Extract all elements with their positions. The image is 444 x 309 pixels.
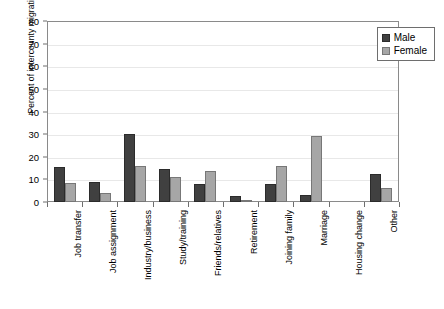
y-axis-tick-label: 80 bbox=[28, 16, 39, 27]
female-swatch-icon bbox=[382, 47, 390, 55]
x-axis-tick-mark bbox=[153, 202, 154, 207]
chart-legend: Male Female bbox=[377, 27, 435, 61]
y-axis-tick-label: 50 bbox=[28, 83, 39, 94]
x-axis-tick-mark bbox=[223, 202, 224, 207]
bar-male bbox=[194, 184, 205, 202]
x-axis-tick-mark bbox=[329, 202, 330, 207]
y-axis-tick-label: 70 bbox=[28, 38, 39, 49]
x-axis-tick-mark bbox=[117, 202, 118, 207]
x-axis-tick-marks bbox=[47, 202, 399, 207]
bar-male bbox=[124, 134, 135, 202]
male-swatch-icon bbox=[382, 34, 390, 42]
y-axis-tick-labels: 80706050403020100 bbox=[0, 21, 47, 202]
legend-label-female: Female bbox=[394, 44, 427, 57]
bar-male bbox=[159, 169, 170, 202]
x-axis-tick-mark bbox=[47, 202, 48, 207]
y-axis-tick-label: 40 bbox=[28, 106, 39, 117]
x-axis-label: Job transfer bbox=[71, 208, 85, 304]
bar-group bbox=[188, 21, 223, 202]
x-axis-label: Retirement bbox=[247, 208, 261, 304]
bar-female bbox=[135, 166, 146, 202]
x-axis-label: Job assignment bbox=[106, 208, 120, 304]
bar-female bbox=[205, 171, 216, 202]
bar-female bbox=[65, 183, 76, 202]
bar-male bbox=[89, 182, 100, 202]
x-axis-tick-mark bbox=[258, 202, 259, 207]
bar-male bbox=[265, 184, 276, 202]
x-axis-label: Study/training bbox=[176, 208, 190, 304]
bar-female bbox=[311, 136, 322, 202]
legend-label-male: Male bbox=[394, 31, 416, 44]
bar-group bbox=[293, 21, 328, 202]
x-axis-label: Housing change bbox=[352, 208, 366, 304]
bar-groups bbox=[47, 21, 399, 202]
x-axis-label: Joining family bbox=[282, 208, 296, 304]
bar-group bbox=[153, 21, 188, 202]
bar-group bbox=[117, 21, 152, 202]
y-axis-tick-label: 20 bbox=[28, 151, 39, 162]
bar-chart-figure: Percent of intercounty migration 8070605… bbox=[0, 0, 444, 309]
x-axis-tick-mark bbox=[399, 202, 400, 207]
bar-group bbox=[329, 21, 364, 202]
x-axis-tick-mark bbox=[364, 202, 365, 207]
x-axis-label: Industry/business bbox=[141, 208, 155, 304]
x-axis-label: Friends/relatives bbox=[211, 208, 225, 304]
bar-group bbox=[258, 21, 293, 202]
y-axis-tick-label: 30 bbox=[28, 129, 39, 140]
bar-group bbox=[47, 21, 82, 202]
y-axis-tick-label: 60 bbox=[28, 61, 39, 72]
bar-male bbox=[370, 174, 381, 202]
bar-female bbox=[100, 193, 111, 202]
bar-female bbox=[381, 188, 392, 202]
y-axis-tick-label: 0 bbox=[34, 197, 39, 208]
bar-group bbox=[223, 21, 258, 202]
bar-group bbox=[82, 21, 117, 202]
x-axis-tick-mark bbox=[293, 202, 294, 207]
x-axis-label: Other bbox=[387, 208, 401, 304]
legend-item-male: Male bbox=[382, 31, 427, 44]
y-axis-tick-label: 10 bbox=[28, 174, 39, 185]
x-axis-label: Marriage bbox=[317, 208, 331, 304]
x-axis-category-labels: Job transferJob assignmentIndustry/busin… bbox=[47, 208, 399, 304]
bar-female bbox=[276, 166, 287, 202]
x-axis-tick-mark bbox=[188, 202, 189, 207]
bar-male bbox=[300, 195, 311, 202]
bar-female bbox=[170, 177, 181, 202]
bar-male bbox=[54, 167, 65, 202]
legend-item-female: Female bbox=[382, 44, 427, 57]
x-axis-tick-mark bbox=[82, 202, 83, 207]
